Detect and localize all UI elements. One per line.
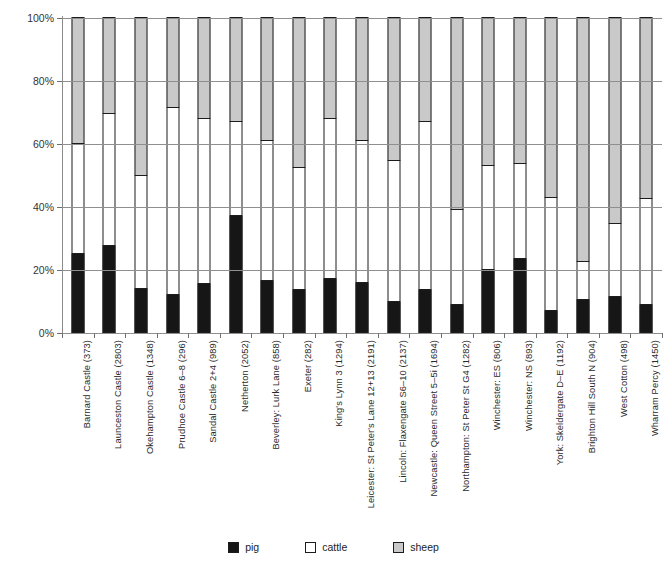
bar-segment-sheep[interactable] [608, 17, 621, 224]
legend-item-sheep[interactable]: sheep [393, 542, 439, 553]
bar-segment-sheep[interactable] [419, 17, 432, 122]
bar-segment-sheep[interactable] [324, 17, 337, 119]
bar-segment-pig[interactable] [545, 310, 558, 333]
bar-segment-cattle[interactable] [640, 198, 653, 305]
bar-slot [567, 18, 599, 333]
stacked-bar[interactable] [292, 18, 305, 333]
x-axis-category-label-text: Launceston Castle (2803) [113, 340, 123, 449]
bar-segment-pig[interactable] [608, 296, 621, 333]
x-tick-mark [630, 333, 631, 338]
bar-segment-cattle[interactable] [292, 167, 305, 291]
stacked-bar[interactable] [608, 18, 621, 333]
bar-segment-pig[interactable] [355, 282, 368, 333]
x-tick-mark [662, 333, 663, 338]
bar-segment-pig[interactable] [450, 304, 463, 333]
stacked-bar[interactable] [198, 18, 211, 333]
stacked-bar[interactable] [261, 18, 274, 333]
bar-segment-cattle[interactable] [134, 175, 147, 289]
stacked-bar[interactable] [482, 18, 495, 333]
bar-segment-sheep[interactable] [387, 17, 400, 161]
bar-slot [409, 18, 441, 333]
x-axis-category-label-text: Brighton Hill South N (904) [587, 340, 597, 453]
bar-segment-pig[interactable] [103, 245, 116, 333]
stacked-bar[interactable] [387, 18, 400, 333]
stacked-bar[interactable] [166, 18, 179, 333]
bar-segment-pig[interactable] [166, 294, 179, 333]
bar-segment-pig[interactable] [640, 304, 653, 333]
x-tick-mark [220, 333, 221, 338]
x-axis-category-label-text: Netherton (2052) [240, 340, 250, 412]
x-axis-category-label-text: Wharram Percy (1450) [650, 340, 660, 436]
bar-segment-cattle[interactable] [71, 143, 84, 254]
stacked-bar[interactable] [513, 18, 526, 333]
x-axis-category-label: King's Lynn 3 (1294) [334, 340, 344, 427]
bar-segment-pig[interactable] [482, 269, 495, 333]
bar-segment-sheep[interactable] [640, 17, 653, 199]
bar-segment-sheep[interactable] [450, 17, 463, 210]
x-tick-mark [378, 333, 379, 338]
bar-segment-pig[interactable] [229, 215, 242, 333]
stacked-bar[interactable] [640, 18, 653, 333]
stacked-bar[interactable] [229, 18, 242, 333]
bar-segment-cattle[interactable] [577, 261, 590, 300]
bar-segment-pig[interactable] [261, 280, 274, 333]
bar-segment-cattle[interactable] [545, 197, 558, 311]
stacked-bar[interactable] [419, 18, 432, 333]
bar-segment-pig[interactable] [324, 278, 337, 333]
bar-segment-pig[interactable] [71, 253, 84, 333]
bar-segment-sheep[interactable] [229, 17, 242, 122]
stacked-bar[interactable] [577, 18, 590, 333]
bar-segment-cattle[interactable] [450, 209, 463, 305]
stacked-bar[interactable] [71, 18, 84, 333]
bar-segment-sheep[interactable] [513, 17, 526, 164]
bar-segment-pig[interactable] [292, 289, 305, 333]
bar-segment-sheep[interactable] [134, 17, 147, 176]
bar-segment-pig[interactable] [577, 299, 590, 333]
bar-segment-cattle[interactable] [229, 121, 242, 217]
bar-segment-sheep[interactable] [166, 17, 179, 108]
bar-segment-sheep[interactable] [577, 17, 590, 262]
stacked-bar[interactable] [324, 18, 337, 333]
bar-segment-cattle[interactable] [387, 160, 400, 301]
x-tick-mark [473, 333, 474, 338]
bar-segment-cattle[interactable] [419, 121, 432, 291]
bar-segment-sheep[interactable] [261, 17, 274, 141]
legend-item-pig[interactable]: pig [228, 542, 259, 553]
bar-segment-cattle[interactable] [166, 107, 179, 295]
y-tick-mark [57, 18, 62, 19]
stacked-bar[interactable] [134, 18, 147, 333]
bar-segment-pig[interactable] [419, 289, 432, 333]
x-tick-mark [94, 333, 95, 338]
bar-segment-sheep[interactable] [355, 17, 368, 141]
bar-segment-cattle[interactable] [198, 118, 211, 284]
x-axis-category-label: Launceston Castle (2803) [113, 340, 123, 449]
x-axis-category-label: York: Skeldergate D–E (1192) [555, 340, 565, 465]
bar-segment-cattle[interactable] [608, 223, 621, 296]
bar-segment-cattle[interactable] [482, 165, 495, 270]
x-axis-category-label: Newcastle: Queen Street 5–5i (1694) [429, 340, 439, 496]
bar-segment-sheep[interactable] [198, 17, 211, 119]
x-axis-category-label-text: Winchester: NS (893) [524, 340, 534, 431]
bar-segment-cattle[interactable] [103, 113, 116, 246]
stacked-bar[interactable] [103, 18, 116, 333]
bar-segment-cattle[interactable] [324, 118, 337, 280]
bar-segment-cattle[interactable] [261, 140, 274, 281]
bar-slot [94, 18, 126, 333]
bar-segment-pig[interactable] [387, 301, 400, 334]
legend-swatch-icon [228, 542, 239, 553]
x-axis-category-label-text: Sandal Castle 2+4 (989) [208, 340, 218, 443]
stacked-bar[interactable] [545, 18, 558, 333]
bar-segment-sheep[interactable] [292, 17, 305, 168]
stacked-bar[interactable] [355, 18, 368, 333]
bar-segment-sheep[interactable] [103, 17, 116, 114]
bar-segment-sheep[interactable] [545, 17, 558, 198]
x-axis-category-label: Northampton: St Peter St G4 (1282) [461, 340, 471, 492]
bar-segment-pig[interactable] [198, 283, 211, 333]
bar-slot [473, 18, 505, 333]
bar-segment-cattle[interactable] [513, 163, 526, 259]
stacked-bar[interactable] [450, 18, 463, 333]
bar-segment-pig[interactable] [134, 288, 147, 333]
legend-item-cattle[interactable]: cattle [305, 542, 347, 553]
x-axis-category-label-text: York: Skeldergate D–E (1192) [555, 340, 565, 465]
bar-segment-cattle[interactable] [355, 140, 368, 283]
